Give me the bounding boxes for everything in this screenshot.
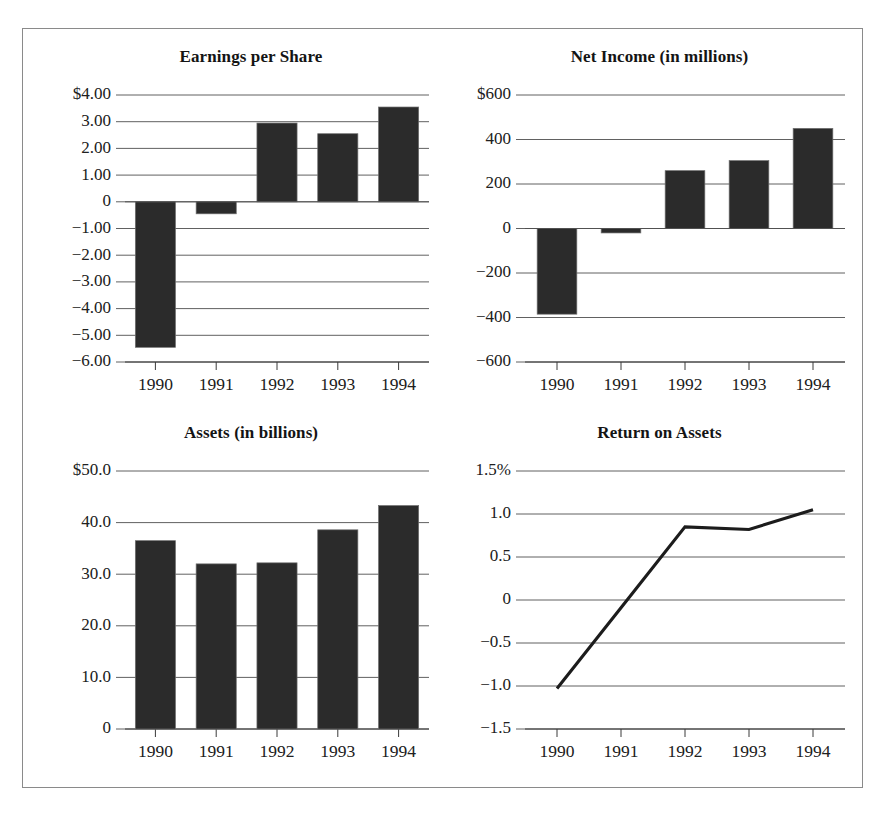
- x-axis-tick-label: 1991: [199, 741, 234, 761]
- y-axis-tick-label: −1.5: [480, 718, 511, 737]
- chart-plot-assets: $50.040.030.020.010.00199019911992199319…: [29, 411, 439, 783]
- y-axis-tick-label: −400: [476, 307, 511, 326]
- chart-panel-net-income: Net Income (in millions) $6004002000−200…: [441, 35, 856, 407]
- y-axis-tick-label: 1.0: [490, 503, 511, 522]
- x-axis-tick-label: 1990: [540, 741, 575, 761]
- y-axis-tick-label: 2.00: [81, 138, 111, 157]
- y-axis-tick-label: 0: [103, 718, 112, 737]
- bar: [196, 564, 236, 729]
- x-axis-tick-label: 1993: [320, 741, 355, 761]
- x-axis-tick-label: 1994: [381, 741, 416, 761]
- x-axis-tick-label: 1993: [320, 374, 355, 394]
- y-axis-tick-label: −6.00: [72, 351, 111, 370]
- y-axis-tick-label: 10.0: [81, 667, 111, 686]
- bar: [318, 134, 358, 202]
- bar: [729, 161, 769, 229]
- bar: [601, 229, 641, 233]
- y-axis-tick-label: 0: [503, 218, 512, 237]
- y-axis-tick-label: −0.5: [480, 632, 511, 651]
- y-axis-tick-label: −5.00: [72, 325, 111, 344]
- chart-panel-assets: Assets (in billions) $50.040.030.020.010…: [29, 411, 439, 783]
- y-axis-tick-label: $50.0: [73, 460, 111, 479]
- y-axis-tick-label: 0.5: [490, 546, 511, 565]
- x-axis-tick-label: 1993: [732, 374, 767, 394]
- x-axis-tick-label: 1994: [796, 374, 831, 394]
- y-axis-tick-label: 20.0: [81, 615, 111, 634]
- y-axis-tick-label: 200: [486, 173, 512, 192]
- bar: [257, 123, 297, 202]
- chart-plot-return-on-assets: 1.5%1.00.50−0.5−1.0−1.519901991199219931…: [441, 411, 856, 783]
- bar: [379, 506, 419, 729]
- bar: [793, 128, 833, 228]
- chart-panel-earnings-per-share: Earnings per Share $4.003.002.001.000−1.…: [29, 35, 439, 407]
- chart-panel-return-on-assets: Return on Assets 1.5%1.00.50−0.5−1.0−1.5…: [441, 411, 856, 783]
- x-axis-tick-label: 1993: [732, 741, 767, 761]
- chart-plot-earnings-per-share: $4.003.002.001.000−1.00−2.00−3.00−4.00−5…: [29, 35, 439, 407]
- y-axis-tick-label: $600: [477, 84, 511, 103]
- x-axis-tick-label: 1990: [138, 374, 173, 394]
- x-axis-tick-label: 1990: [540, 374, 575, 394]
- x-axis-tick-label: 1991: [199, 374, 234, 394]
- y-axis-tick-label: −1.00: [72, 218, 111, 237]
- y-axis-tick-label: 1.5%: [476, 460, 511, 479]
- y-axis-tick-label: 30.0: [81, 564, 111, 583]
- y-axis-tick-label: 1.00: [81, 165, 111, 184]
- data-line: [557, 510, 813, 689]
- y-axis-tick-label: −4.00: [72, 298, 111, 317]
- y-axis-tick-label: 400: [486, 129, 512, 148]
- x-axis-tick-label: 1992: [668, 374, 703, 394]
- y-axis-tick-label: 3.00: [81, 111, 111, 130]
- x-axis-tick-label: 1992: [260, 741, 295, 761]
- figure-frame: Earnings per Share $4.003.002.001.000−1.…: [22, 28, 863, 788]
- chart-plot-net-income: $6004002000−200−400−60019901991199219931…: [441, 35, 856, 407]
- bar: [318, 530, 358, 729]
- bar: [196, 202, 236, 214]
- x-axis-tick-label: 1991: [604, 374, 639, 394]
- y-axis-tick-label: −2.00: [72, 245, 111, 264]
- bar: [135, 541, 175, 729]
- y-axis-tick-label: 0: [503, 589, 512, 608]
- x-axis-tick-label: 1994: [796, 741, 831, 761]
- x-axis-tick-label: 1991: [604, 741, 639, 761]
- y-axis-tick-label: −1.0: [480, 675, 511, 694]
- y-axis-tick-label: 40.0: [81, 512, 111, 531]
- x-axis-tick-label: 1992: [668, 741, 703, 761]
- bar: [537, 229, 577, 315]
- x-axis-tick-label: 1990: [138, 741, 173, 761]
- bar: [257, 563, 297, 729]
- bar: [379, 107, 419, 202]
- y-axis-tick-label: $4.00: [73, 84, 111, 103]
- y-axis-tick-label: −200: [476, 262, 511, 281]
- bar: [665, 171, 705, 229]
- y-axis-tick-label: −3.00: [72, 271, 111, 290]
- x-axis-tick-label: 1994: [381, 374, 416, 394]
- y-axis-tick-label: −600: [476, 351, 511, 370]
- bar: [135, 202, 175, 348]
- x-axis-tick-label: 1992: [260, 374, 295, 394]
- y-axis-tick-label: 0: [103, 191, 112, 210]
